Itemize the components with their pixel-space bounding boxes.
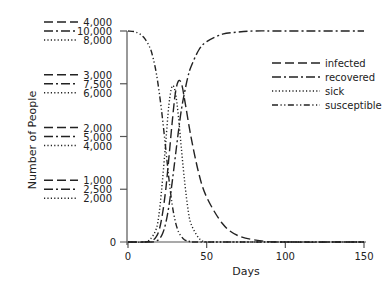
- y-tick-label-sick: 6,000: [83, 88, 112, 99]
- y-axis-title: Number of People: [26, 91, 39, 190]
- x-tick-label: 0: [125, 251, 131, 262]
- y-tick-label-sick: 4,000: [83, 141, 112, 152]
- x-axis-title: Days: [232, 265, 260, 278]
- legend-label-infected: infected: [325, 58, 366, 69]
- y-tick-label-sick: 2,000: [83, 193, 112, 204]
- epidemic-chart: 4,00010,0008,0003,0007,5006,0002,0005,00…: [0, 0, 390, 290]
- legend: infectedrecoveredsicksusceptible: [272, 58, 382, 111]
- y-tick-label-zero: 0: [110, 237, 116, 248]
- x-tick-label: 100: [276, 251, 295, 262]
- x-tick-label: 150: [354, 251, 373, 262]
- legend-label-recovered: recovered: [325, 72, 375, 83]
- x-ticks: 050100150: [125, 242, 374, 262]
- legend-label-sick: sick: [325, 86, 344, 97]
- y-ticks: 4,00010,0008,0003,0007,5006,0002,0005,00…: [44, 17, 127, 248]
- x-tick-label: 50: [200, 251, 213, 262]
- y-tick-label-sick: 8,000: [83, 35, 112, 46]
- legend-label-susceptible: susceptible: [325, 100, 382, 111]
